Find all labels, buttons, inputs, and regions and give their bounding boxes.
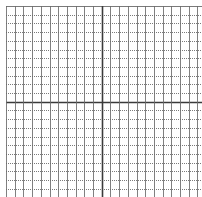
graph-paper-grid bbox=[0, 0, 202, 197]
grid-canvas bbox=[0, 0, 202, 197]
